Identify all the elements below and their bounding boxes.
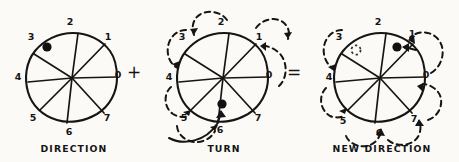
position-marker-dot (42, 42, 51, 51)
sector-label-5: 5 (30, 112, 37, 123)
plus-operator: + (127, 62, 141, 82)
sector-label-4: 4 (166, 71, 173, 82)
sector-label-5: 5 (340, 115, 347, 126)
sector-label-7: 7 (411, 113, 418, 124)
sector-label-7: 7 (255, 112, 262, 123)
sector-label-3: 3 (179, 31, 186, 42)
sector-label-6: 6 (217, 124, 224, 135)
sector-label-0: 0 (115, 69, 122, 80)
equals-operator: = (287, 62, 301, 82)
turn-arrowheads (172, 28, 292, 131)
result-arrow-6-to-7 (388, 121, 421, 145)
sector-label-5: 5 (181, 112, 188, 123)
sector-label-6: 6 (376, 127, 383, 138)
panel-new-direction: 0 1 2 3 4 5 6 7 NEW DIRECTION (321, 16, 443, 154)
caption-new-direction: NEW DIRECTION (333, 143, 432, 154)
sector-label-0: 0 (266, 69, 273, 80)
hand-drawn-diagram: 0 1 2 3 4 5 6 7 DIRECTION + (0, 0, 459, 162)
sector-label-1: 1 (256, 31, 263, 42)
panel-direction: 0 1 2 3 4 5 6 7 DIRECTION (15, 16, 122, 154)
panel-turn: 0 1 2 3 4 5 6 7 TURN (166, 12, 292, 154)
result-arrow-7-to-0 (423, 84, 441, 120)
previous-position-ghost (351, 45, 360, 54)
sector-label-2: 2 (218, 16, 225, 27)
sector-label-2: 2 (67, 16, 74, 27)
sector-label-3: 3 (336, 31, 343, 42)
figure-canvas: 0 1 2 3 4 5 6 7 DIRECTION + (0, 0, 459, 162)
turn-arrow-0-to-1 (260, 46, 286, 86)
sector-label-2: 2 (375, 16, 382, 27)
position-marker-dot (392, 42, 401, 51)
sector-label-0: 0 (423, 69, 430, 80)
sector-label-4: 4 (15, 71, 22, 82)
position-marker-dot (217, 99, 226, 108)
sector-label-7: 7 (104, 112, 111, 123)
sector-label-3: 3 (28, 31, 35, 42)
caption-turn: TURN (207, 143, 240, 154)
sector-label-1: 1 (105, 31, 112, 42)
sector-label-4: 4 (326, 71, 333, 82)
marker-pointer-head (216, 110, 226, 118)
caption-direction: DIRECTION (41, 143, 108, 154)
sector-label-6: 6 (66, 126, 73, 137)
sector-label-1: 1 (409, 28, 416, 39)
